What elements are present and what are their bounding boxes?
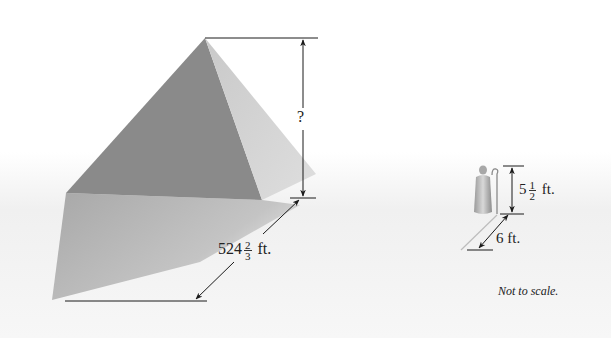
person-height-whole: 5 <box>519 181 527 197</box>
person-shadow-length-label: 6 ft. <box>496 230 520 247</box>
person-height-fraction: 12 <box>529 180 537 201</box>
pyramid-shadow-length-label: 52423 ft. <box>218 240 271 261</box>
pyramid-shadow-whole: 524 <box>218 240 242 257</box>
pyramid-height-label: ? <box>297 108 304 126</box>
person-height-unit: ft. <box>542 181 555 197</box>
pyramid-shadow-unit: ft. <box>258 240 272 257</box>
fraction-denominator: 2 <box>530 191 536 201</box>
fraction-denominator: 3 <box>245 251 251 261</box>
person-height-label: 512 ft. <box>519 180 555 201</box>
similar-triangles-diagram: ? 52423 ft. 512 ft. 6 ft. Not to scale. <box>0 0 611 338</box>
pyramid-shadow-fraction: 23 <box>244 240 252 261</box>
not-to-scale-note: Not to scale. <box>498 284 558 299</box>
